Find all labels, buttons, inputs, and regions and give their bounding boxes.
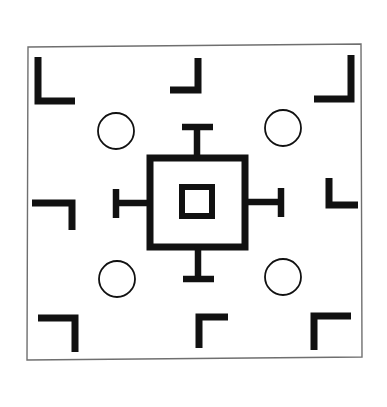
diagram-canvas xyxy=(0,0,387,407)
alignment-mark-diagram xyxy=(0,0,387,407)
